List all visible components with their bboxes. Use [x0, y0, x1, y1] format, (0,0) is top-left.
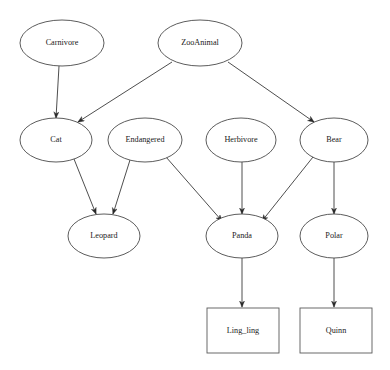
edges-layer — [56, 62, 334, 307]
node-endangered[interactable]: Endangered — [108, 118, 182, 162]
node-label-zooanimal: ZooAnimal — [181, 38, 219, 47]
edge-endangered-to-leopard — [113, 160, 130, 214]
node-label-herbivore: Herbivore — [224, 135, 258, 144]
node-leopard[interactable]: Leopard — [68, 214, 140, 258]
node-panda[interactable]: Panda — [206, 214, 278, 258]
node-label-endangered: Endangered — [125, 135, 164, 144]
node-herbivore[interactable]: Herbivore — [206, 118, 276, 162]
edge-endangered-to-panda — [166, 157, 222, 221]
node-carnivore[interactable]: Carnivore — [20, 20, 104, 66]
edge-zooanimal-to-bear — [228, 62, 314, 122]
edge-cat-to-leopard — [74, 159, 96, 214]
node-cat[interactable]: Cat — [20, 118, 92, 162]
nodes-layer: CarnivoreZooAnimalCatEndangeredHerbivore… — [20, 20, 372, 353]
node-label-leopard: Leopard — [90, 231, 117, 240]
node-quinn[interactable]: Quinn — [300, 308, 372, 353]
node-label-ling_ling: Ling_ling — [227, 326, 259, 335]
node-label-bear: Bear — [326, 135, 342, 144]
graph-svg: CarnivoreZooAnimalCatEndangeredHerbivore… — [0, 0, 390, 370]
edge-zooanimal-to-cat — [78, 62, 172, 122]
edge-carnivore-to-cat — [56, 66, 59, 118]
node-ling_ling[interactable]: Ling_ling — [207, 308, 279, 353]
edge-bear-to-panda — [262, 157, 313, 221]
node-label-carnivore: Carnivore — [46, 38, 79, 47]
node-label-cat: Cat — [50, 135, 62, 144]
node-label-panda: Panda — [232, 231, 252, 240]
diagram-canvas: CarnivoreZooAnimalCatEndangeredHerbivore… — [0, 0, 390, 370]
node-label-polar: Polar — [325, 231, 343, 240]
node-bear[interactable]: Bear — [300, 118, 368, 162]
node-zooanimal[interactable]: ZooAnimal — [158, 20, 242, 66]
node-label-quinn: Quinn — [326, 326, 346, 335]
node-polar[interactable]: Polar — [300, 214, 368, 258]
